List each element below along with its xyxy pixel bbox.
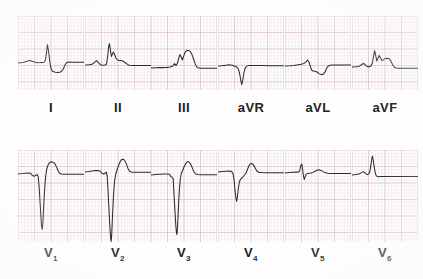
lead-label-subscript: 2: [120, 254, 125, 263]
lead-label-v6: V6: [342, 245, 423, 263]
ecg-panel-v2: [85, 150, 151, 242]
lead-label-avf: aVF: [342, 100, 423, 115]
ecg-panel-v5: [285, 150, 351, 242]
ecg-trace-iii: [151, 16, 217, 90]
ecg-panel-avl: [285, 16, 351, 90]
limb-leads-row: IIIIIIaVRaVLaVF: [0, 16, 423, 124]
ecg-trace-v2: [85, 150, 151, 242]
ecg-trace-i: [18, 16, 84, 90]
ecg-trace-avl: [285, 16, 351, 90]
ecg-trace-v6: [352, 150, 418, 242]
ecg-panel-iii: [151, 16, 217, 90]
ecg-panel-ii: [85, 16, 151, 90]
ecg-trace-ii: [85, 16, 151, 90]
ecg-trace-v3: [151, 150, 217, 242]
ecg-panel-v6: [352, 150, 418, 242]
ecg-trace-v4: [218, 150, 284, 242]
ecg-trace-v1: [18, 150, 84, 242]
lead-label-subscript: 1: [53, 254, 58, 263]
precordial-leads-row: V1V2V3V4V5V6: [0, 150, 423, 276]
ecg-panel-v3: [151, 150, 217, 242]
ecg-panel-avr: [218, 16, 284, 90]
ecg-panel-v1: [18, 150, 84, 242]
lead-label-subscript: 3: [186, 254, 191, 263]
lead-label-subscript: 4: [253, 254, 258, 263]
ecg-panel-i: [18, 16, 84, 90]
ecg-figure: IIIIIIaVRaVLaVF V1V2V3V4V5V6: [0, 0, 423, 279]
ecg-trace-v5: [285, 150, 351, 242]
ecg-trace-avr: [218, 16, 284, 90]
lead-label-subscript: 5: [320, 254, 325, 263]
ecg-panel-avf: [352, 16, 418, 90]
ecg-panel-v4: [218, 150, 284, 242]
lead-label-subscript: 6: [387, 254, 392, 263]
ecg-trace-avf: [352, 16, 418, 90]
